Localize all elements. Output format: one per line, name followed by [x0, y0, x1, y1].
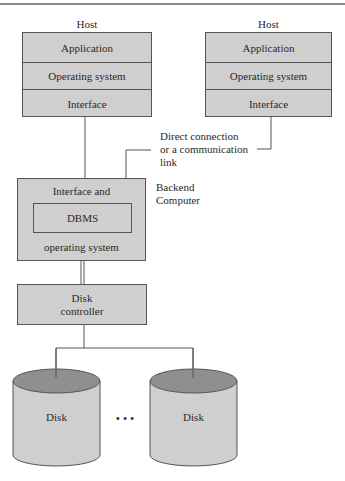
- connection-label-line-2: or a communication: [160, 143, 248, 156]
- backend-label-line-1: Backend: [156, 181, 194, 194]
- disk-1-label: Disk: [13, 411, 100, 424]
- disk-controller-line-1: Disk: [18, 291, 146, 304]
- dbms-box: DBMS: [33, 203, 132, 233]
- host-2-interface: Interface: [206, 89, 331, 117]
- host-1-operating-system: Operating system: [23, 62, 151, 89]
- connection-label-line-3: link: [160, 156, 177, 169]
- ellipsis: • • •: [108, 413, 142, 426]
- host-1-interface: Interface: [23, 89, 151, 117]
- disk-controller-line-2: controller: [18, 304, 146, 317]
- host-2-box: Application Operating system Interface: [205, 32, 332, 117]
- host-1-title: Host: [22, 18, 152, 31]
- backend-top-text: Interface and: [18, 183, 145, 199]
- host-2-title: Host: [205, 18, 332, 31]
- host-1-box: Application Operating system Interface: [22, 32, 152, 117]
- host-2-application: Application: [206, 33, 331, 62]
- host-2-operating-system: Operating system: [206, 62, 331, 89]
- host-1-application: Application: [23, 33, 151, 62]
- backend-bottom-text: operating system: [18, 239, 145, 255]
- backend-computer-box: Interface and DBMS operating system: [17, 178, 146, 261]
- disk-2-label: Disk: [150, 411, 237, 424]
- connection-label-line-1: Direct connection: [160, 130, 239, 143]
- disk-controller-box: Disk controller: [17, 284, 147, 325]
- backend-label-line-2: Computer: [156, 194, 200, 207]
